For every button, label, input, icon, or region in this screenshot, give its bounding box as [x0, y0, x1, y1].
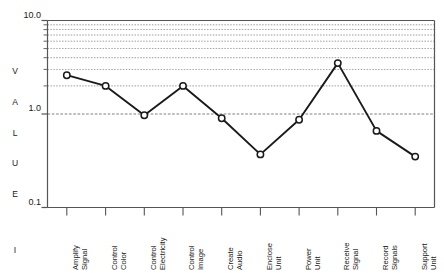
x-tick-label-line: Image [197, 245, 206, 269]
x-tick-label-line: Amplify [71, 245, 80, 270]
x-tick-label-line: Unit [429, 243, 438, 270]
x-tick-label-line: Support [420, 243, 429, 270]
x-tick-label: CreateAudio [227, 247, 244, 270]
x-tick-label: PowerUnit [305, 248, 322, 270]
chart-container: V A L U E I N D E X 10.0 1.0 0.1 Amplify… [0, 0, 444, 273]
x-tick-label-line: Enclose [265, 242, 274, 269]
x-tick-label-line: Control [110, 245, 119, 269]
x-tick-label-line: Signal [352, 242, 361, 269]
x-tick-label-line: Electricity [158, 237, 167, 270]
x-tick-label-line: Unit [274, 242, 283, 269]
x-tick-label: ControlElectricity [150, 237, 167, 270]
x-tick-label: EncloseUnit [266, 242, 283, 269]
x-tick-label: RecordSignals [382, 245, 399, 270]
x-tick-label-line: Color [120, 245, 129, 269]
x-tick-label-line: Signal [81, 245, 90, 270]
x-tick-label-line: Audio [236, 247, 245, 270]
x-tick-label-line: Control [149, 245, 158, 269]
x-tick-label: ReceiveSignal [343, 242, 360, 269]
axis-ticks [42, 21, 416, 216]
gridlines [48, 21, 435, 208]
x-tick-label: ControlColor [111, 245, 128, 269]
data-line [67, 63, 415, 157]
x-tick-label-line: Receive [342, 242, 351, 269]
x-tick-label-line: Power [304, 248, 313, 270]
x-tick-label-line: Record [381, 245, 390, 269]
x-tick-label: SupportUnit [421, 243, 438, 270]
x-tick-label-line: Unit [313, 248, 322, 270]
x-tick-label: AmplifySignal [72, 245, 89, 270]
plot-area [0, 0, 444, 273]
x-tick-label: ControlImage [188, 245, 205, 269]
x-tick-label-line: Create [226, 247, 235, 270]
x-tick-label-line: Signals [391, 245, 400, 270]
